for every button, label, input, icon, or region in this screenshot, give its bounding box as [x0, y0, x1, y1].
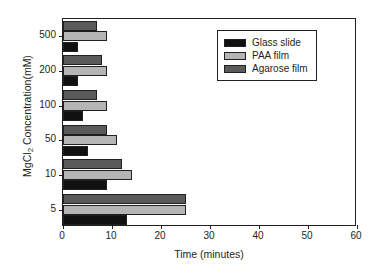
y-axis-label-subscript: 2	[26, 148, 35, 152]
x-axis-tick-label: 50	[287, 230, 327, 241]
bar	[63, 170, 132, 180]
legend-item: Glass slide	[224, 36, 308, 49]
bar-group	[63, 88, 355, 123]
legend-swatch-icon	[224, 52, 246, 60]
bar	[63, 66, 107, 76]
x-axis-tick-label: 10	[91, 230, 131, 241]
bar	[63, 159, 122, 169]
bar-group	[63, 123, 355, 158]
bar	[63, 111, 83, 121]
legend: Glass slidePAA filmAgarose film	[217, 30, 317, 81]
y-axis-tick	[59, 36, 63, 37]
x-axis-tick-label: 40	[238, 230, 278, 241]
y-axis-label-post: Concentration(mM)	[21, 55, 33, 148]
bar	[63, 135, 117, 145]
y-axis-tick	[59, 175, 63, 176]
bar	[63, 146, 88, 156]
x-axis-tick-label: 0	[42, 230, 82, 241]
bar	[63, 31, 107, 41]
legend-item-label: PAA film	[252, 50, 289, 61]
legend-swatch-icon	[224, 65, 246, 73]
bar-group	[63, 192, 355, 227]
x-axis-tick-label: 60	[336, 230, 376, 241]
bar	[63, 55, 102, 65]
x-axis-tick-label: 20	[140, 230, 180, 241]
bar	[63, 76, 78, 86]
x-axis-label: Time (minutes)	[62, 248, 356, 260]
legend-item: Agarose film	[224, 62, 308, 75]
bar	[63, 42, 78, 52]
bar	[63, 194, 186, 204]
bar	[63, 205, 186, 215]
y-axis-tick	[59, 71, 63, 72]
legend-swatch-icon	[224, 39, 246, 47]
bar	[63, 180, 107, 190]
legend-item-label: Agarose film	[252, 63, 308, 74]
bar	[63, 125, 107, 135]
bar	[63, 21, 97, 31]
bar-chart-figure: 010203040506050020010050105 Time (minute…	[0, 0, 376, 280]
bar-group	[63, 158, 355, 193]
y-axis-label: MgCl2 Concentration(mM)	[21, 16, 33, 216]
y-axis-tick	[59, 210, 63, 211]
bar	[63, 101, 107, 111]
bar	[63, 215, 127, 225]
x-axis-tick	[357, 225, 358, 229]
legend-item-label: Glass slide	[252, 37, 301, 48]
legend-item: PAA film	[224, 49, 308, 62]
y-axis-tick	[59, 106, 63, 107]
bar	[63, 90, 97, 100]
x-axis-tick-label: 30	[189, 230, 229, 241]
y-axis-label-pre: MgCl	[21, 152, 33, 177]
y-axis-tick	[59, 140, 63, 141]
